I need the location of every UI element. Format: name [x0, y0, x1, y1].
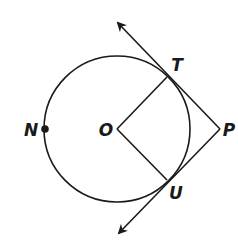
- tangent-ray-pu: [119, 129, 220, 233]
- label-o: O: [99, 122, 113, 139]
- diagram-canvas: N O T U P: [0, 0, 238, 248]
- label-t: T: [171, 57, 183, 74]
- radius-ou: [117, 129, 167, 180]
- label-n: N: [24, 122, 38, 139]
- radius-ot: [117, 77, 167, 129]
- label-p: P: [223, 122, 235, 139]
- label-u: U: [169, 185, 183, 202]
- point-n-dot: [41, 125, 49, 133]
